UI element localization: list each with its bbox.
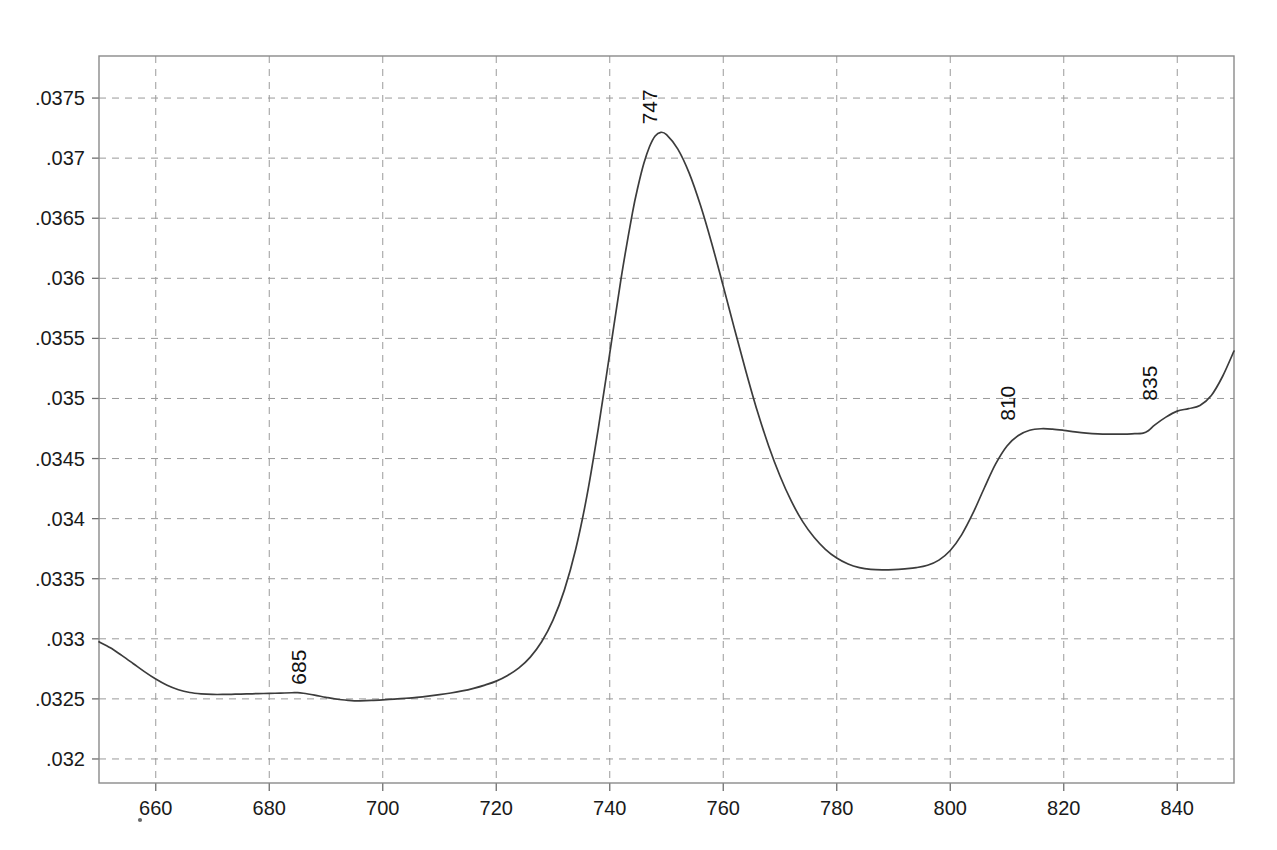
y-axis-tick-label: .034 [46,508,85,530]
y-axis-tick-label: .035 [46,387,85,409]
chart-background [0,0,1277,850]
x-axis-tick-label: 820 [1047,797,1080,819]
y-axis-tick-label: .0355 [35,327,85,349]
scan-artifact-dot [138,818,142,822]
x-axis-tick-label: 780 [820,797,853,819]
x-axis-tick-label: 680 [253,797,286,819]
peak-label-747: 747 [638,89,661,124]
y-axis-tick-label: .032 [46,748,85,770]
x-axis-tick-label: 660 [139,797,172,819]
y-axis-tick-label: .0365 [35,207,85,229]
y-axis-tick-label: .0325 [35,688,85,710]
x-axis-tick-label: 760 [707,797,740,819]
y-axis-tick-label: .0335 [35,568,85,590]
y-axis-tick-label: .0345 [35,448,85,470]
y-axis-tick-label: .037 [46,147,85,169]
y-axis-tick-label: .033 [46,628,85,650]
spectrum-chart: .032.0325.033.0335.034.0345.035.0355.036… [0,0,1277,850]
peak-label-685: 685 [287,650,310,685]
y-axis-tick-label: .036 [46,267,85,289]
spectrum-plot-svg: .032.0325.033.0335.034.0345.035.0355.036… [0,0,1277,850]
x-axis-tick-label: 700 [366,797,399,819]
x-axis-tick-label: 740 [593,797,626,819]
peak-label-835: 835 [1138,366,1161,401]
x-axis-tick-label: 800 [934,797,967,819]
peak-label-810: 810 [996,386,1019,421]
y-axis-tick-label: .0375 [35,87,85,109]
x-axis-tick-label: 720 [480,797,513,819]
x-axis-tick-label: 840 [1161,797,1194,819]
